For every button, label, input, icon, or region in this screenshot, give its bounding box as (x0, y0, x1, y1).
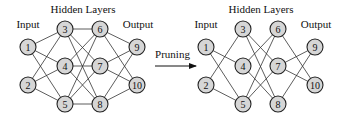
node-label: 10 (310, 80, 320, 91)
node-label: 1 (204, 42, 209, 53)
node-2: 2 (20, 77, 36, 93)
edge-6-10 (100, 29, 137, 85)
node-label: 6 (98, 24, 103, 35)
pruned-network: 12345678910InputHidden LayersOutput (194, 3, 331, 112)
input-layer-label: Input (16, 18, 39, 30)
edge-6-10 (278, 29, 315, 85)
node-10: 10 (129, 77, 145, 93)
hidden-layers-label: Hidden Layers (50, 3, 115, 15)
node-label: 1 (26, 42, 31, 53)
node-label: 4 (241, 61, 246, 72)
node-label: 5 (241, 99, 246, 110)
node-label: 8 (276, 99, 281, 110)
node-2: 2 (198, 77, 214, 93)
node-6: 6 (92, 21, 108, 37)
node-7: 7 (92, 58, 108, 74)
node-9: 9 (307, 39, 323, 55)
node-label: 5 (63, 99, 68, 110)
node-4: 4 (235, 58, 251, 74)
node-5: 5 (57, 96, 73, 112)
edge-2-3 (206, 29, 243, 85)
node-label: 3 (241, 24, 246, 35)
node-label: 9 (135, 42, 140, 53)
node-label: 2 (204, 80, 209, 91)
node-label: 6 (276, 24, 281, 35)
node-label: 7 (98, 61, 103, 72)
input-layer-label: Input (194, 18, 217, 30)
node-label: 10 (132, 80, 142, 91)
output-layer-label: Output (123, 18, 154, 30)
node-label: 3 (63, 24, 68, 35)
node-9: 9 (129, 39, 145, 55)
node-4: 4 (57, 58, 73, 74)
node-7: 7 (270, 58, 286, 74)
pruning-diagram: 12345678910InputHidden LayersOutput 1234… (0, 0, 360, 123)
node-1: 1 (20, 39, 36, 55)
output-layer-label: Output (301, 18, 332, 30)
pruning-arrow: Pruning (155, 48, 196, 66)
node-label: 7 (276, 61, 281, 72)
node-6: 6 (270, 21, 286, 37)
node-10: 10 (307, 77, 323, 93)
node-label: 4 (63, 61, 68, 72)
node-5: 5 (235, 96, 251, 112)
node-8: 8 (92, 96, 108, 112)
pruning-label: Pruning (155, 48, 190, 60)
node-label: 9 (313, 42, 318, 53)
node-label: 2 (26, 80, 31, 91)
node-3: 3 (235, 21, 251, 37)
hidden-layers-label: Hidden Layers (228, 3, 293, 15)
edge-2-3 (28, 29, 65, 85)
original-network: 12345678910InputHidden LayersOutput (16, 3, 153, 112)
edge-8-9 (278, 47, 315, 104)
edge-8-9 (100, 47, 137, 104)
node-3: 3 (57, 21, 73, 37)
node-1: 1 (198, 39, 214, 55)
edge-1-5 (206, 47, 243, 104)
node-label: 8 (98, 99, 103, 110)
node-8: 8 (270, 96, 286, 112)
